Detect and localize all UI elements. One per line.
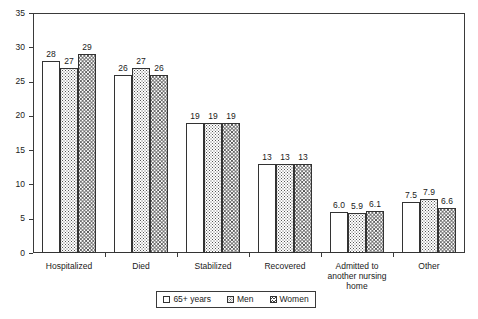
y-axis-tick-mark xyxy=(29,13,33,14)
bar-value-label: 19 xyxy=(208,112,217,121)
bar xyxy=(402,202,420,253)
y-axis-tick-label: 20 xyxy=(16,111,25,120)
bar xyxy=(222,123,240,253)
bar-value-label: 6.0 xyxy=(333,201,345,210)
y-axis-tick-label: 5 xyxy=(20,214,25,223)
bar-value-label: 13 xyxy=(298,153,307,162)
legend-item-label: Women xyxy=(280,295,309,304)
bar xyxy=(132,68,150,253)
bars-layer: 2827292627261919191313136.05.96.17.57.96… xyxy=(33,13,465,253)
bar xyxy=(150,75,168,253)
bar-value-label: 28 xyxy=(46,50,55,59)
legend-swatch-icon xyxy=(227,296,234,303)
legend-item[interactable]: 65+ years xyxy=(163,295,211,304)
x-axis-tick-mark xyxy=(105,253,106,257)
bar-value-label: 7.5 xyxy=(405,191,417,200)
x-axis-tick-mark xyxy=(249,253,250,257)
y-axis-tick-label: 25 xyxy=(16,77,25,86)
bar-value-label: 6.1 xyxy=(369,200,381,209)
y-axis-tick-mark xyxy=(29,150,33,151)
x-axis-tick-mark xyxy=(321,253,322,257)
bar xyxy=(276,164,294,253)
bar xyxy=(348,213,366,253)
bar-value-label: 13 xyxy=(262,153,271,162)
bar-value-label: 27 xyxy=(64,57,73,66)
y-axis-tick-label: 35 xyxy=(16,9,25,18)
bar-value-label: 26 xyxy=(154,64,163,73)
legend-item[interactable]: Men xyxy=(227,295,254,304)
bar-value-label: 26 xyxy=(118,64,127,73)
y-axis-tick-label: 10 xyxy=(16,180,25,189)
y-axis-tick-label: 30 xyxy=(16,43,25,52)
bar xyxy=(78,54,96,253)
legend-swatch-icon xyxy=(270,296,277,303)
bar xyxy=(258,164,276,253)
bar xyxy=(294,164,312,253)
x-axis-category-label: Other xyxy=(386,261,472,271)
y-axis-tick-mark xyxy=(29,116,33,117)
legend-swatch-icon xyxy=(163,296,170,303)
bar-value-label: 19 xyxy=(190,112,199,121)
bar-value-label: 27 xyxy=(136,57,145,66)
bar xyxy=(114,75,132,253)
bar xyxy=(438,208,456,253)
x-axis-tick-mark xyxy=(393,253,394,257)
chart-legend: 65+ yearsMenWomen xyxy=(156,291,316,308)
bar-value-label: 13 xyxy=(280,153,289,162)
legend-item[interactable]: Women xyxy=(270,295,309,304)
bar xyxy=(42,61,60,253)
y-axis-tick-mark xyxy=(29,184,33,185)
x-axis-tick-mark xyxy=(177,253,178,257)
bar-value-label: 19 xyxy=(226,112,235,121)
bar xyxy=(420,199,438,253)
bar xyxy=(186,123,204,253)
y-axis-tick-label: 0 xyxy=(20,249,25,258)
bar-value-label: 29 xyxy=(82,43,91,52)
legend-item-label: 65+ years xyxy=(173,295,211,304)
bar-value-label: 6.6 xyxy=(441,197,453,206)
bar-value-label: 5.9 xyxy=(351,202,363,211)
bar xyxy=(366,211,384,253)
bar xyxy=(204,123,222,253)
y-axis-tick-mark xyxy=(29,47,33,48)
y-axis-tick-mark xyxy=(29,219,33,220)
y-axis-tick-mark xyxy=(29,253,33,254)
bar xyxy=(330,212,348,253)
bar xyxy=(60,68,78,253)
legend-item-label: Men xyxy=(237,295,254,304)
y-axis-tick-label: 15 xyxy=(16,146,25,155)
bar-value-label: 7.9 xyxy=(423,188,435,197)
bar-chart: 05101520253035 2827292627261919191313136… xyxy=(0,0,478,319)
y-axis-tick-mark xyxy=(29,82,33,83)
